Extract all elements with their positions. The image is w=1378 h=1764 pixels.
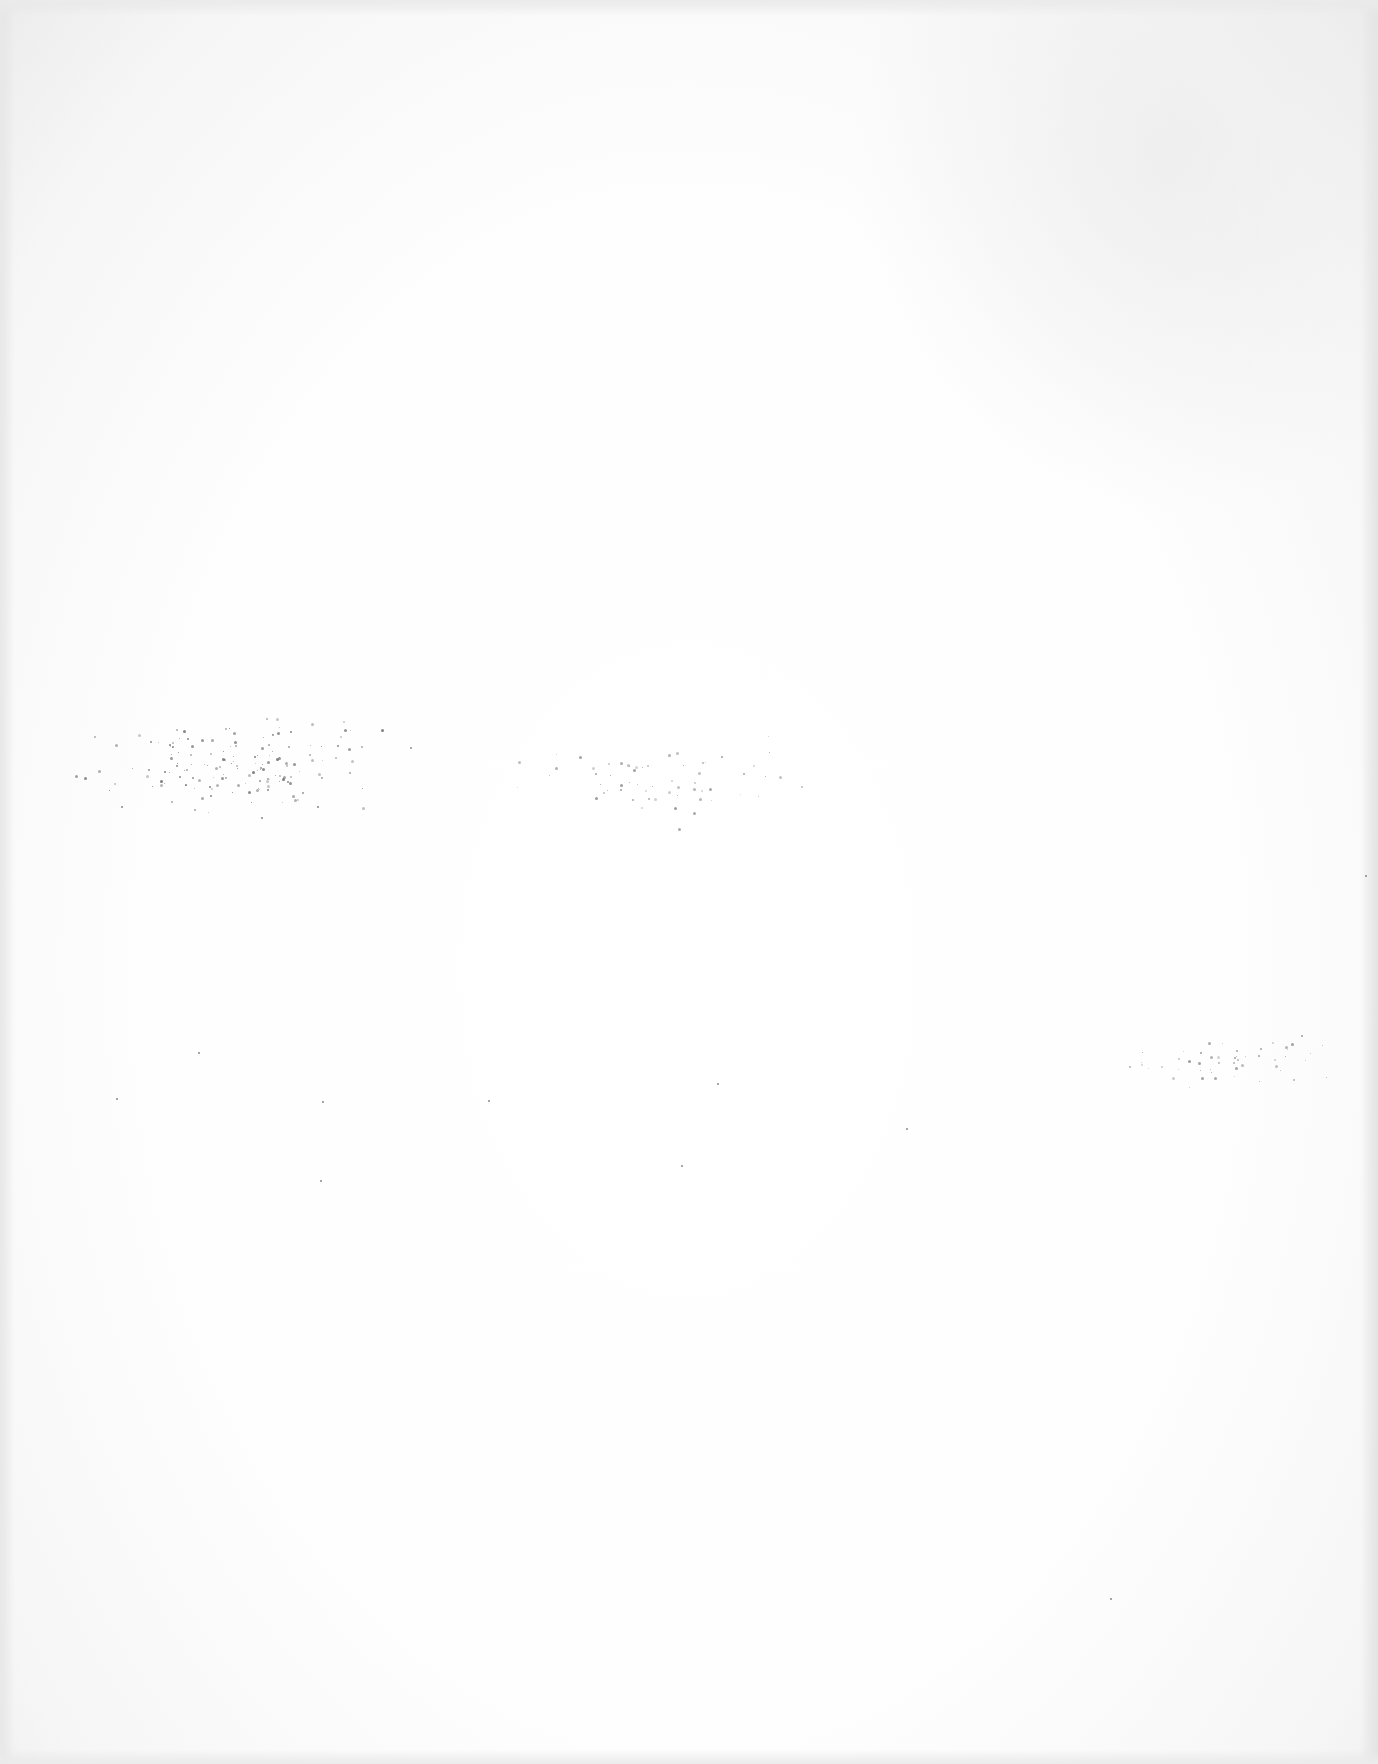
speck [1301,1035,1303,1037]
speck [192,777,194,779]
speck [150,741,152,743]
speck [1222,1043,1223,1044]
speck [629,782,630,783]
speck [1200,1070,1201,1071]
speck [1291,1043,1294,1046]
speck [1183,1051,1184,1052]
paper-discoloration [850,0,1378,520]
speck [410,747,412,749]
speck [721,756,723,758]
speck [518,761,521,764]
speck [210,795,212,797]
speck [215,767,218,770]
speck [610,775,611,776]
speck [75,775,78,778]
speck [282,802,283,803]
speck [1236,1056,1237,1057]
speck [1272,1042,1274,1044]
speck [1141,1064,1143,1066]
speck [116,1098,118,1100]
speck [164,771,166,773]
speck [245,783,246,784]
speck [186,769,188,771]
speck [277,732,280,735]
speck [261,747,264,750]
speck [1218,1062,1220,1064]
speck [620,762,623,765]
speck [185,784,187,786]
speck [221,777,224,780]
speck [158,742,159,743]
speck [179,776,181,778]
speck [276,758,279,761]
speck [230,746,231,747]
speck [753,765,755,767]
speck [801,786,803,788]
speck [765,776,766,777]
speck [488,1100,490,1102]
speck [1237,1059,1239,1061]
speck [257,770,258,771]
speck [1236,1050,1238,1052]
speck [1178,1058,1180,1060]
speck [287,781,289,783]
speck [115,744,118,747]
speck [198,1052,200,1054]
speck [1189,1087,1190,1088]
speck [267,785,270,788]
speck [146,775,149,778]
speck [620,789,622,791]
speck [607,790,608,791]
speck [671,780,673,782]
speck [668,791,671,794]
speck [198,779,201,782]
speck [758,796,759,797]
speck [1322,1045,1323,1046]
speck [262,764,263,765]
speck [1259,1081,1260,1082]
speck [236,765,238,767]
speck [311,759,314,762]
page-edge-shadow-left [0,0,14,1764]
speck [254,756,256,758]
speck [225,777,227,779]
speck [1198,1062,1201,1065]
speck [1208,1042,1211,1045]
speck [272,751,273,752]
speck [293,763,296,766]
speck [268,744,270,746]
speck [603,792,605,794]
speck [231,763,232,764]
speck [608,763,610,765]
speck [769,752,770,753]
speck [361,746,363,748]
speck [318,773,321,776]
speck [94,736,96,738]
speck [194,788,195,789]
scanned-page [0,0,1378,1764]
speck [1310,1053,1311,1054]
speck [1293,1079,1295,1081]
speck [1233,1062,1235,1064]
speck [1274,1059,1276,1061]
speck [322,1101,324,1103]
speck [138,734,141,737]
speck [234,741,237,744]
speck [743,773,745,775]
speck [266,718,268,720]
speck [219,766,221,768]
speck [693,812,696,815]
speck [172,747,173,748]
speck [233,756,234,757]
speck [642,767,643,768]
speck [694,782,696,784]
speck [1235,1067,1238,1070]
speck [648,798,650,800]
speck [297,799,299,801]
speck [276,718,279,721]
speck [740,794,741,795]
speck [1241,1064,1244,1067]
speck [683,765,684,766]
speck [213,777,214,778]
speck [290,731,292,733]
